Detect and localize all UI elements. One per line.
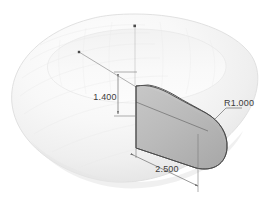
top-center-point-marker — [133, 25, 136, 28]
cad-drawing-canvas: 1.400 2.500 R1.000 — [0, 0, 271, 205]
dim-r1000-label: R1.000 — [224, 98, 254, 108]
dim-2500-label: 2.500 — [155, 164, 179, 174]
dim-1400-label: 1.400 — [93, 92, 117, 102]
cad-viewport: 1.400 2.500 R1.000 — [0, 0, 271, 205]
axis-start-point-marker — [78, 51, 80, 53]
